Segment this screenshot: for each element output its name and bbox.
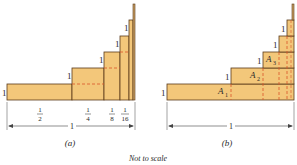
height-label: 1 [99,55,104,65]
svg-text:1: 1 [123,106,127,114]
scale-note: Not to scale [128,154,168,163]
width-label-quarter: 1 4 [85,106,91,123]
svg-text:1: 1 [225,92,228,98]
height-label: 1 [67,71,72,81]
svg-text:1: 1 [70,122,74,131]
dimension-total-a: 1 [7,102,135,131]
rect-tail [133,4,135,100]
rect-step-2 [231,68,294,84]
rect-32nd [129,20,133,100]
svg-text:2: 2 [38,115,42,123]
diagram-canvas: 1 1 1 1 1 1 2 1 4 1 8 1 16 [0,0,297,165]
svg-text:4: 4 [86,115,90,123]
rect-sixteenth [120,36,129,100]
rect-half [7,84,72,100]
rect-base [167,84,294,100]
panel-b: 1 1 1 1 1 A 1 A 2 A 3 1 (b) [161,4,294,148]
svg-text:2: 2 [257,76,260,82]
caption-b: (b) [222,138,233,148]
dimension-total-b: 1 [167,102,294,131]
height-label: 1 [281,24,286,34]
height-label: 1 [273,40,278,50]
svg-text:1: 1 [229,122,233,131]
height-label: 1 [124,23,129,33]
height-label: 1 [225,72,230,82]
height-label: 1 [115,39,120,49]
svg-text:A: A [249,70,256,80]
svg-text:3: 3 [273,60,276,66]
rect-step-5 [287,20,294,36]
svg-text:16: 16 [122,115,130,123]
width-label-half: 1 2 [37,106,43,123]
height-label: 1 [257,56,262,66]
rect-step-4 [279,36,294,52]
svg-text:1: 1 [110,106,114,114]
svg-text:8: 8 [110,115,114,123]
svg-text:1: 1 [86,106,90,114]
width-label-eighth: 1 8 [109,106,115,123]
panel-a: 1 1 1 1 1 1 2 1 4 1 8 1 16 [2,4,135,148]
height-label: 1 [2,88,7,98]
svg-text:1: 1 [38,106,42,114]
rect-eighth [104,52,120,100]
rect-tail [292,4,294,20]
height-label: 1 [161,88,166,98]
caption-a: (a) [65,138,76,148]
svg-text:A: A [265,54,272,64]
svg-text:A: A [217,86,224,96]
width-label-sixteenth: 1 16 [121,106,129,123]
